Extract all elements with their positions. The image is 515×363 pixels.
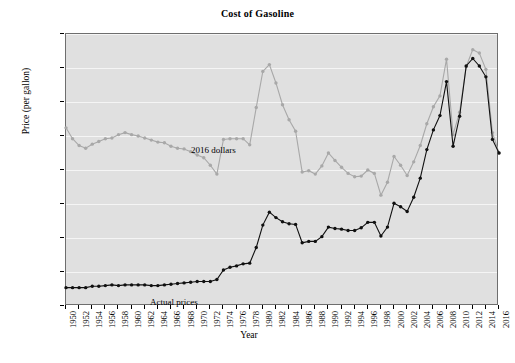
series-marker — [84, 286, 87, 289]
x-axis-tick-label: 2008 — [449, 311, 458, 328]
series-marker — [176, 282, 179, 285]
series-marker — [294, 130, 297, 133]
series-marker — [465, 64, 468, 67]
x-axis-tick-mark — [393, 305, 394, 309]
series-marker — [366, 221, 369, 224]
x-axis-tick-label: 1994 — [357, 311, 366, 328]
x-axis-tick-label: 2004 — [423, 311, 432, 328]
series-marker — [196, 280, 199, 283]
series-marker — [412, 160, 415, 163]
x-axis-tick-mark — [183, 305, 184, 309]
series-marker — [202, 156, 205, 159]
series-marker — [235, 137, 238, 140]
series-marker — [333, 159, 336, 162]
series-layer — [66, 34, 499, 306]
x-axis-tick-mark — [406, 305, 407, 309]
series-marker — [241, 262, 244, 265]
series-marker — [209, 164, 212, 167]
x-axis-tick-mark — [380, 305, 381, 309]
series-marker — [110, 283, 113, 286]
series-marker — [123, 131, 126, 134]
x-axis-tick-mark — [170, 305, 171, 309]
series-marker — [307, 240, 310, 243]
series-marker — [104, 284, 107, 287]
series-marker — [143, 136, 146, 139]
chart-container: Cost of Gasoline Price (per gallon) 2016… — [0, 0, 515, 363]
series-marker — [399, 164, 402, 167]
x-axis-tick-label: 2010 — [462, 311, 471, 328]
series-marker — [458, 115, 461, 118]
series-marker — [117, 133, 120, 136]
series-marker — [346, 172, 349, 175]
x-axis-tick-label: 2000 — [397, 311, 406, 328]
x-axis-tick-mark — [498, 305, 499, 309]
series-marker — [143, 283, 146, 286]
x-axis-tick-label: 1962 — [147, 311, 156, 328]
x-axis-tick-label: 1958 — [121, 311, 130, 328]
series-marker — [327, 151, 330, 154]
series-marker — [228, 266, 231, 269]
series-marker — [97, 285, 100, 288]
x-axis-tick-mark — [485, 305, 486, 309]
series-marker — [169, 283, 172, 286]
x-axis-tick-label: 1992 — [344, 311, 353, 328]
y-axis-tick-mark — [60, 169, 64, 170]
x-axis-tick-mark — [341, 305, 342, 309]
x-axis-tick-mark — [288, 305, 289, 309]
x-axis-tick-mark — [131, 305, 132, 309]
series-marker — [64, 126, 67, 129]
series-marker — [392, 202, 395, 205]
series-marker — [104, 137, 107, 140]
series-marker — [399, 205, 402, 208]
series-marker — [268, 63, 271, 66]
x-axis-tick-label: 1996 — [370, 311, 379, 328]
series-marker — [445, 57, 448, 60]
plot-area: 2016 dollars Actual prices — [65, 33, 498, 305]
x-axis-tick-label: 1964 — [160, 311, 169, 328]
series-marker — [419, 176, 422, 179]
series-marker — [340, 166, 343, 169]
series-marker — [451, 145, 454, 148]
x-axis-tick-label: 1970 — [200, 311, 209, 328]
series-marker — [150, 138, 153, 141]
series-marker — [300, 241, 303, 244]
x-axis-tick-mark — [144, 305, 145, 309]
series-marker — [425, 122, 428, 125]
series-marker — [274, 216, 277, 219]
x-axis-tick-label: 1950 — [69, 311, 78, 328]
series-marker — [241, 137, 244, 140]
series-marker — [360, 174, 363, 177]
series-marker — [373, 221, 376, 224]
series-marker — [405, 210, 408, 213]
x-axis-tick-label: 1990 — [331, 311, 340, 328]
x-axis-tick-label: 1968 — [187, 311, 196, 328]
x-axis-tick-label: 1988 — [318, 311, 327, 328]
series-marker — [478, 64, 481, 67]
series-marker — [110, 136, 113, 139]
x-axis-tick-label: 1984 — [292, 311, 301, 328]
x-axis-tick-mark — [314, 305, 315, 309]
series-marker — [386, 181, 389, 184]
series-marker — [491, 138, 494, 141]
annotation-real-prices: 2016 dollars — [191, 145, 236, 155]
series-marker — [274, 81, 277, 84]
series-marker — [248, 261, 251, 264]
chart-title: Cost of Gasoline — [0, 8, 515, 19]
x-axis-tick-mark — [472, 305, 473, 309]
series-marker — [314, 240, 317, 243]
x-axis-tick-mark — [222, 305, 223, 309]
x-axis-tick-mark — [117, 305, 118, 309]
series-marker — [497, 151, 500, 154]
series-marker — [163, 283, 166, 286]
series-marker — [307, 169, 310, 172]
series-marker — [222, 268, 225, 271]
series-marker — [228, 137, 231, 140]
series-marker — [333, 227, 336, 230]
x-axis-tick-mark — [301, 305, 302, 309]
x-axis-tick-mark — [157, 305, 158, 309]
series-marker — [136, 134, 139, 137]
series-marker — [353, 175, 356, 178]
series-marker — [182, 147, 185, 150]
series-marker — [360, 226, 363, 229]
series-marker — [287, 118, 290, 121]
